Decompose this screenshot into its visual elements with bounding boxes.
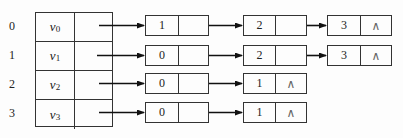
next-pointer-cell: [179, 46, 208, 65]
null-pointer-icon: ∧: [276, 103, 306, 122]
edge-node: 0: [145, 45, 209, 66]
next-pointer-cell: [276, 46, 306, 65]
null-pointer-icon: ∧: [361, 46, 391, 65]
null-pointer-icon: ∧: [361, 16, 391, 35]
edge-node: 1: [145, 15, 209, 36]
next-pointer-cell: [179, 16, 208, 35]
edge-node: 3 ∧: [327, 45, 392, 66]
adjvex-cell: 3: [328, 46, 361, 65]
adjvex-cell: 2: [244, 46, 276, 65]
next-pointer-cell: [276, 16, 306, 35]
edge-node: 0: [145, 73, 209, 94]
adjvex-cell: 1: [244, 103, 276, 122]
adjvex-cell: 0: [146, 103, 179, 122]
adjvex-cell: 3: [328, 16, 361, 35]
edge-node: 1 ∧: [243, 102, 307, 123]
adjvex-cell: 0: [146, 46, 179, 65]
edge-node: 0: [145, 102, 209, 123]
edge-node: 3 ∧: [327, 15, 392, 36]
next-pointer-cell: [179, 74, 208, 93]
adjvex-cell: 2: [244, 16, 276, 35]
null-pointer-icon: ∧: [276, 74, 306, 93]
adjvex-cell: 0: [146, 74, 179, 93]
edge-node: 2: [243, 15, 307, 36]
edge-node: 1 ∧: [243, 73, 307, 94]
next-pointer-cell: [179, 103, 208, 122]
adjvex-cell: 1: [244, 74, 276, 93]
edge-node: 2: [243, 45, 307, 66]
adjvex-cell: 1: [146, 16, 179, 35]
